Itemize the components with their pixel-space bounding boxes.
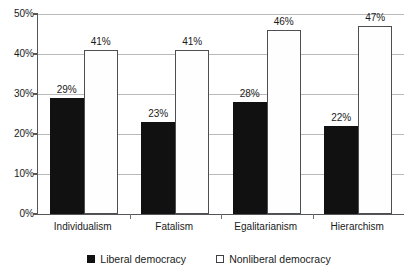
bar [233, 102, 267, 214]
y-axis-tick [33, 13, 38, 14]
bar-value-label: 41% [167, 36, 217, 47]
y-axis-tick [33, 93, 38, 94]
bar-value-label: 41% [76, 36, 126, 47]
y-axis-tick [33, 173, 38, 174]
chart-legend: Liberal democracyNonliberal democracy [0, 253, 418, 265]
legend-item: Liberal democracy [87, 253, 186, 265]
legend-item-label: Liberal democracy [100, 253, 186, 265]
bar-value-label: 46% [259, 16, 309, 27]
y-axis-tick [33, 133, 38, 134]
x-axis-tick [130, 214, 131, 219]
y-axis: 0%10%20%30%40%50% [0, 0, 34, 273]
legend-item: Nonliberal democracy [216, 253, 331, 265]
hollow-square-icon [216, 255, 224, 263]
y-axis-tick-label: 10% [0, 169, 34, 179]
bar [324, 126, 358, 214]
y-axis-tick [33, 53, 38, 54]
y-axis-tick [33, 213, 38, 214]
bar [358, 26, 392, 214]
x-axis-tick [313, 214, 314, 219]
bar [175, 50, 209, 214]
y-axis-tick-label: 40% [0, 49, 34, 59]
bar-value-label: 47% [350, 12, 400, 23]
bar [50, 98, 84, 214]
y-axis-tick-label: 20% [0, 129, 34, 139]
x-axis-category-label: Individualism [37, 221, 129, 232]
x-axis-category-label: Fatalism [129, 221, 221, 232]
legend-item-label: Nonliberal democracy [229, 253, 331, 265]
bar-chart: 0%10%20%30%40%50% 29%41%23%41%28%46%22%4… [0, 0, 418, 273]
x-axis-tick [221, 214, 222, 219]
x-axis-category-label: Hierarchism [312, 221, 404, 232]
y-axis-tick-label: 50% [0, 9, 34, 19]
filled-square-icon [87, 255, 95, 263]
gridline [38, 14, 404, 15]
y-axis-tick-label: 0% [0, 209, 34, 219]
y-axis-tick-label: 30% [0, 89, 34, 99]
x-axis-category-label: Egalitarianism [220, 221, 312, 232]
bar [267, 30, 301, 214]
plot-area: 29%41%23%41%28%46%22%47% [37, 14, 404, 215]
bar [84, 50, 118, 214]
bar [141, 122, 175, 214]
